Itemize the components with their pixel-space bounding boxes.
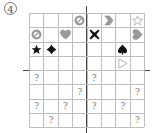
heart-icon [60, 29, 71, 40]
unknown-cell: ? [130, 113, 144, 127]
shape-cell [130, 14, 144, 28]
question-mark: ? [34, 73, 39, 83]
shape-cell [30, 28, 44, 42]
question-mark: ? [34, 101, 39, 111]
question-mark: ? [49, 115, 54, 125]
shape-cell [73, 14, 87, 28]
unknown-cell: ? [73, 85, 87, 99]
puzzle-grid: ?????????? [29, 13, 144, 127]
shape-cell [130, 28, 144, 42]
spade-icon [117, 44, 128, 55]
unknown-cell: ? [58, 99, 72, 113]
chevron-right-icon [103, 15, 114, 26]
triangle-right-outline-icon [117, 58, 128, 69]
shape-cell [30, 42, 44, 56]
unknown-cell: ? [30, 99, 44, 113]
unknown-cell: ? [87, 71, 101, 85]
question-mark: ? [63, 101, 68, 111]
shape-cell [116, 42, 130, 56]
unknown-cell: ? [130, 85, 144, 99]
question-mark: ? [121, 101, 126, 111]
no-sign-icon [31, 29, 42, 40]
question-mark: ? [77, 87, 82, 97]
star-icon [31, 44, 42, 55]
unknown-cell: ? [44, 113, 58, 127]
unknown-cell: ? [116, 99, 130, 113]
question-mark: ? [92, 101, 97, 111]
star-outline-icon [132, 15, 143, 26]
heart-rotated-icon [132, 29, 143, 40]
unknown-cell: ? [30, 71, 44, 85]
unknown-cell: ? [87, 99, 101, 113]
cross-icon [89, 29, 100, 40]
shape-cell [58, 28, 72, 42]
puzzle-number-label: 4 [4, 2, 17, 15]
no-sign-icon [74, 15, 85, 26]
question-mark: ? [135, 87, 140, 97]
question-mark: ? [92, 73, 97, 83]
shape-cell [44, 42, 58, 56]
question-mark: ? [135, 115, 140, 125]
shape-cell [116, 56, 130, 70]
shape-cell [101, 14, 115, 28]
shape-cell [87, 28, 101, 42]
diamond-icon [46, 44, 57, 55]
